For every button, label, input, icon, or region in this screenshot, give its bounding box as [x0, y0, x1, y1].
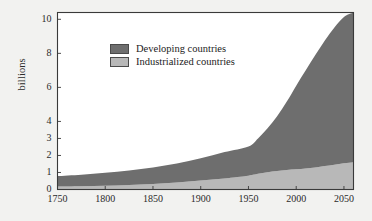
y-tick-label-8: 8: [34, 48, 52, 58]
x-tick-label-2050: 2050: [324, 194, 364, 204]
legend-item-industrialized-countries: Industrialized countries: [110, 56, 235, 67]
y-tick-label-10: 10: [34, 14, 52, 24]
x-tick-label-1750: 1750: [38, 194, 78, 204]
legend-label: Developing countries: [136, 43, 226, 54]
chart-legend: Developing countriesIndustrialized count…: [110, 43, 235, 69]
legend-swatch-icon: [110, 57, 129, 67]
legend-swatch-icon: [110, 44, 129, 54]
population-area-chart: billions 012346810 175018001850190019502…: [0, 0, 372, 221]
x-tick-label-2000: 2000: [276, 194, 316, 204]
x-tick-label-1800: 1800: [85, 194, 125, 204]
y-tick-label-6: 6: [34, 82, 52, 92]
plot-area: [0, 0, 372, 221]
y-tick-label-3: 3: [34, 133, 52, 143]
y-tick-label-2: 2: [34, 150, 52, 160]
y-tick-label-4: 4: [34, 116, 52, 126]
legend-item-developing-countries: Developing countries: [110, 43, 235, 54]
y-axis-title: billions: [16, 77, 27, 91]
legend-label: Industrialized countries: [136, 56, 235, 67]
x-tick-label-1850: 1850: [133, 194, 173, 204]
y-tick-label-1: 1: [34, 167, 52, 177]
x-tick-label-1950: 1950: [228, 194, 268, 204]
x-tick-label-1900: 1900: [181, 194, 221, 204]
